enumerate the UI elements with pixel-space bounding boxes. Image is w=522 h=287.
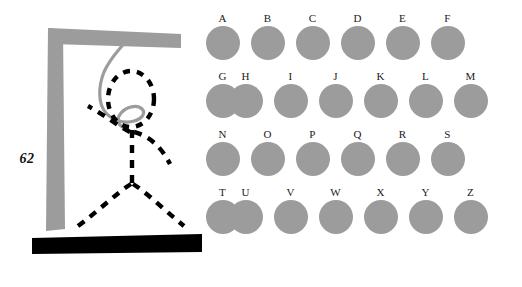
- letter-label: M: [448, 70, 493, 83]
- letter-option-a[interactable]: A: [200, 12, 245, 70]
- letter-option-c[interactable]: C: [290, 12, 335, 70]
- letter-circle[interactable]: [296, 142, 330, 176]
- letter-label: W: [313, 186, 358, 199]
- letter-circle[interactable]: [296, 26, 330, 60]
- letter-circle[interactable]: [319, 200, 353, 234]
- letter-option-r[interactable]: R: [380, 128, 425, 186]
- letter-option-f[interactable]: F: [425, 12, 470, 70]
- letter-option-q[interactable]: Q: [335, 128, 380, 186]
- letter-option-e[interactable]: E: [380, 12, 425, 70]
- letter-label: Q: [335, 128, 380, 141]
- hanging-rope: [100, 41, 144, 128]
- letter-circle[interactable]: [274, 84, 308, 118]
- letter-option-u[interactable]: U: [223, 186, 268, 244]
- letter-option-n[interactable]: N: [200, 128, 245, 186]
- letter-label: F: [425, 12, 470, 25]
- letter-option-w[interactable]: W: [313, 186, 358, 244]
- letter-option-d[interactable]: D: [335, 12, 380, 70]
- gallows-crossbeam: [49, 28, 181, 48]
- letter-option-l[interactable]: L: [403, 70, 448, 128]
- letter-row: ABCDEFG: [200, 12, 510, 70]
- puzzle-page: 62 ABCDEFGHIJKLMNOPQRSTUVWXYZ: [0, 0, 522, 287]
- letter-option-h[interactable]: H: [223, 70, 268, 128]
- letter-option-o[interactable]: O: [245, 128, 290, 186]
- figure-right-leg: [133, 184, 184, 226]
- letter-label: Y: [403, 186, 448, 199]
- letter-label: L: [403, 70, 448, 83]
- letter-label: Z: [448, 186, 493, 199]
- letter-label: C: [290, 12, 335, 25]
- hangman-gallows-illustration: [22, 14, 222, 272]
- letter-circle[interactable]: [386, 26, 420, 60]
- letter-label: S: [425, 128, 470, 141]
- letter-circle[interactable]: [341, 26, 375, 60]
- letter-circle[interactable]: [431, 142, 465, 176]
- letter-label: V: [268, 186, 313, 199]
- gallows-post: [46, 28, 65, 231]
- letter-label: X: [358, 186, 403, 199]
- letter-option-z[interactable]: Z: [448, 186, 493, 244]
- figure-right-arm: [134, 132, 170, 164]
- letter-circle[interactable]: [364, 84, 398, 118]
- letter-circle[interactable]: [251, 142, 285, 176]
- letter-label: R: [380, 128, 425, 141]
- letter-option-b[interactable]: B: [245, 12, 290, 70]
- letter-label: H: [223, 70, 268, 83]
- letter-option-i[interactable]: I: [268, 70, 313, 128]
- letter-circle[interactable]: [386, 142, 420, 176]
- letter-option-j[interactable]: J: [313, 70, 358, 128]
- letter-option-s[interactable]: S: [425, 128, 470, 186]
- letter-row: HIJKLM: [200, 70, 510, 128]
- letter-label: P: [290, 128, 335, 141]
- letter-circle[interactable]: [364, 200, 398, 234]
- letter-circle[interactable]: [274, 200, 308, 234]
- letter-label: A: [200, 12, 245, 25]
- letter-circle[interactable]: [431, 26, 465, 60]
- letter-circle[interactable]: [229, 84, 263, 118]
- letter-label: K: [358, 70, 403, 83]
- letter-circle[interactable]: [206, 26, 240, 60]
- letter-option-v[interactable]: V: [268, 186, 313, 244]
- letter-circle[interactable]: [229, 200, 263, 234]
- letter-circle[interactable]: [409, 84, 443, 118]
- letter-label: J: [313, 70, 358, 83]
- letter-circle[interactable]: [454, 200, 488, 234]
- letter-circle[interactable]: [454, 84, 488, 118]
- letter-label: N: [200, 128, 245, 141]
- letter-label: D: [335, 12, 380, 25]
- letter-label: O: [245, 128, 290, 141]
- letter-option-x[interactable]: X: [358, 186, 403, 244]
- letter-option-k[interactable]: K: [358, 70, 403, 128]
- letter-circle[interactable]: [341, 142, 375, 176]
- letter-label: B: [245, 12, 290, 25]
- letter-row: UVWXYZ: [200, 186, 510, 244]
- letter-row: NOPQRST: [200, 128, 510, 186]
- figure-left-leg: [78, 184, 131, 226]
- figure-head: [108, 71, 154, 127]
- letter-option-y[interactable]: Y: [403, 186, 448, 244]
- letter-circle[interactable]: [206, 142, 240, 176]
- letter-circle[interactable]: [319, 84, 353, 118]
- letter-option-p[interactable]: P: [290, 128, 335, 186]
- letter-option-m[interactable]: M: [448, 70, 493, 128]
- letter-circle[interactable]: [251, 26, 285, 60]
- letter-label: I: [268, 70, 313, 83]
- gallows-svg: [22, 14, 222, 272]
- letter-grid: ABCDEFGHIJKLMNOPQRSTUVWXYZ: [200, 12, 510, 264]
- gallows-base: [32, 234, 202, 254]
- letter-label: U: [223, 186, 268, 199]
- letter-label: E: [380, 12, 425, 25]
- letter-circle[interactable]: [409, 200, 443, 234]
